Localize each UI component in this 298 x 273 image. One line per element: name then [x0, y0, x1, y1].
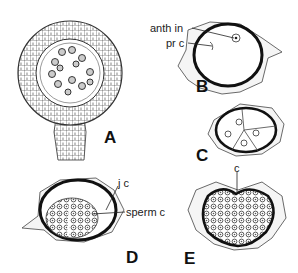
- figure-drawing: [0, 0, 298, 273]
- annotation-c: c: [234, 163, 240, 174]
- annotation-anth-in: anth in: [150, 23, 183, 34]
- panel-label-d: D: [126, 249, 138, 266]
- annotation-j-c: j c: [118, 178, 129, 189]
- panel-label-e: E: [184, 250, 195, 267]
- panel-label-b: B: [196, 78, 208, 95]
- panel-label-c: C: [196, 147, 208, 164]
- panel-d-drawing: [22, 178, 125, 242]
- panel-e-drawing: [188, 172, 286, 250]
- panel-c-drawing: [208, 104, 284, 156]
- annotation-pr-c: pr c: [166, 38, 184, 49]
- panel-label-a: A: [104, 129, 116, 146]
- botanical-figure: A B C D E anth in pr c j c sperm c c: [0, 0, 298, 273]
- annotation-sperm-c: sperm c: [126, 207, 165, 218]
- panel-b-drawing: [178, 22, 282, 94]
